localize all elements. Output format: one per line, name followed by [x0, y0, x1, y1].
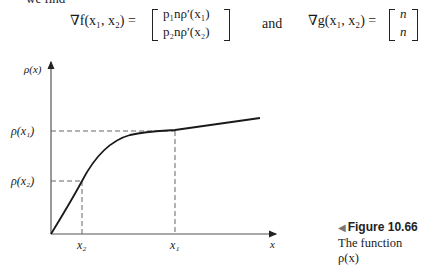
figure-label: ◀Figure 10.66 — [338, 220, 418, 234]
y-axis-label: ρ(x) — [24, 63, 42, 75]
x-tick-x1: x₁ — [170, 238, 180, 253]
y-tick-rho-x1: ρ(x₁) — [11, 124, 34, 139]
figure-caption: The function ρ(x) — [338, 236, 422, 265]
y-tick-rho-x2: ρ(x₂) — [11, 174, 34, 189]
x-tick-x2: x₂ — [77, 238, 87, 253]
left-triangle-icon: ◀ — [338, 222, 346, 233]
x-axis-label: x — [270, 238, 275, 250]
